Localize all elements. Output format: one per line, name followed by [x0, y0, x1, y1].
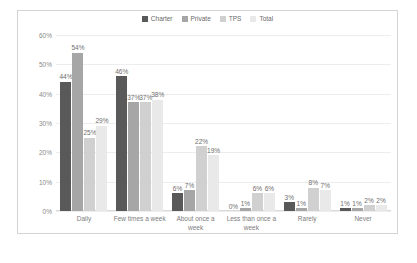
bar-slot: 8% — [308, 35, 319, 211]
bar-value-label: 7% — [321, 183, 330, 190]
bar-group: 6%7%22%19% — [168, 35, 224, 211]
y-axis-tick-label: 50% — [39, 61, 52, 68]
legend-swatch-charter — [142, 16, 148, 22]
bar-group: 46%37%37%38% — [112, 35, 168, 211]
x-axis-category-label: Few times a week — [112, 215, 168, 233]
bar-slot: 37% — [140, 35, 151, 211]
legend-item-private[interactable]: Private — [182, 16, 211, 23]
bar-total[interactable] — [96, 126, 107, 211]
x-axis-category-label: Daily — [56, 215, 112, 233]
x-axis-category-label: Never — [335, 215, 391, 233]
bar-private[interactable] — [296, 208, 307, 211]
bar-value-label: 46% — [115, 69, 128, 76]
bar-slot: 6% — [172, 35, 183, 211]
bar-slot: 46% — [116, 35, 127, 211]
legend-item-tps[interactable]: TPS — [220, 16, 242, 23]
bar-total[interactable] — [320, 190, 331, 211]
bar-value-label: 22% — [195, 139, 208, 146]
bar-group: 1%1%2%2% — [335, 35, 391, 211]
bar-slot: 25% — [84, 35, 95, 211]
bar-slot: 29% — [96, 35, 107, 211]
bar-tps[interactable] — [308, 188, 319, 211]
chart-legend: Charter Private TPS Total — [18, 16, 397, 23]
bar-private[interactable] — [240, 208, 251, 211]
bar-tps[interactable] — [84, 138, 95, 211]
x-axis-labels: DailyFew times a weekAbout once a weekLe… — [56, 215, 391, 233]
bar-value-label: 6% — [173, 186, 182, 193]
legend-label-total: Total — [259, 16, 273, 23]
bar-private[interactable] — [352, 208, 363, 211]
legend-label-charter: Charter — [151, 16, 173, 23]
plot-area: 0%10%20%30%40%50%60% 44%54%25%29%46%37%3… — [56, 35, 391, 211]
legend-swatch-tps — [220, 16, 226, 22]
bar-slot: 6% — [264, 35, 275, 211]
bar-slot: 7% — [184, 35, 195, 211]
bar-value-label: 19% — [207, 148, 220, 155]
bar-slot: 3% — [284, 35, 295, 211]
bar-total[interactable] — [264, 193, 275, 211]
bar-slot: 44% — [60, 35, 71, 211]
x-axis-category-label: Less than once a week — [223, 215, 279, 233]
y-axis-tick-label: 0% — [43, 208, 52, 215]
bar-charter[interactable] — [116, 76, 127, 211]
bar-value-label: 7% — [185, 183, 194, 190]
y-axis-tick-label: 20% — [39, 149, 52, 156]
bar-slot: 7% — [320, 35, 331, 211]
bar-slot: 1% — [352, 35, 363, 211]
legend-item-total[interactable]: Total — [250, 16, 273, 23]
bar-tps[interactable] — [252, 193, 263, 211]
bar-value-label: 29% — [95, 118, 108, 125]
bar-charter[interactable] — [172, 193, 183, 211]
y-axis-tick-label: 40% — [39, 90, 52, 97]
bar-total[interactable] — [208, 155, 219, 211]
bar-slot: 19% — [208, 35, 219, 211]
bar-group: 3%1%8%7% — [279, 35, 335, 211]
bar-total[interactable] — [376, 205, 387, 211]
bar-total[interactable] — [152, 100, 163, 211]
bar-value-label: 25% — [83, 130, 96, 137]
bar-value-label: 2% — [364, 198, 373, 205]
bar-value-label: 3% — [285, 195, 294, 202]
legend-label-tps: TPS — [229, 16, 242, 23]
bar-value-label: 44% — [59, 74, 72, 81]
bar-charter[interactable] — [60, 82, 71, 211]
bar-charter[interactable] — [284, 202, 295, 211]
y-axis-tick-label: 30% — [39, 120, 52, 127]
bar-slot: 1% — [240, 35, 251, 211]
legend-item-charter[interactable]: Charter — [142, 16, 173, 23]
bar-group: 0%1%6%6% — [223, 35, 279, 211]
bar-slot: 1% — [296, 35, 307, 211]
x-axis-category-label: About once a week — [168, 215, 224, 233]
bar-groups: 44%54%25%29%46%37%37%38%6%7%22%19%0%1%6%… — [56, 35, 391, 211]
bar-tps[interactable] — [196, 146, 207, 211]
bar-private[interactable] — [72, 53, 83, 211]
bar-value-label: 1% — [241, 201, 250, 208]
bar-value-label: 38% — [151, 92, 164, 99]
bar-slot: 0% — [228, 35, 239, 211]
bar-value-label: 0% — [229, 204, 238, 211]
bar-value-label: 6% — [265, 186, 274, 193]
bar-slot: 37% — [128, 35, 139, 211]
bar-slot: 22% — [196, 35, 207, 211]
legend-label-private: Private — [191, 16, 211, 23]
gridline — [56, 211, 391, 212]
bar-value-label: 1% — [297, 201, 306, 208]
bar-slot: 2% — [364, 35, 375, 211]
bar-slot: 6% — [252, 35, 263, 211]
bar-charter[interactable] — [340, 208, 351, 211]
bar-value-label: 6% — [253, 186, 262, 193]
x-axis-category-label: Rarely — [279, 215, 335, 233]
bar-group: 44%54%25%29% — [56, 35, 112, 211]
y-axis-tick-label: 10% — [39, 178, 52, 185]
bar-private[interactable] — [184, 190, 195, 211]
legend-swatch-private — [182, 16, 188, 22]
legend-swatch-total — [250, 16, 256, 22]
bar-slot: 1% — [340, 35, 351, 211]
bar-slot: 38% — [152, 35, 163, 211]
bar-private[interactable] — [128, 102, 139, 211]
chart-container: Charter Private TPS Total 0%10%20%30%40%… — [17, 10, 398, 234]
bar-tps[interactable] — [364, 205, 375, 211]
bar-tps[interactable] — [140, 102, 151, 211]
bar-value-label: 2% — [376, 198, 385, 205]
bar-slot: 2% — [376, 35, 387, 211]
